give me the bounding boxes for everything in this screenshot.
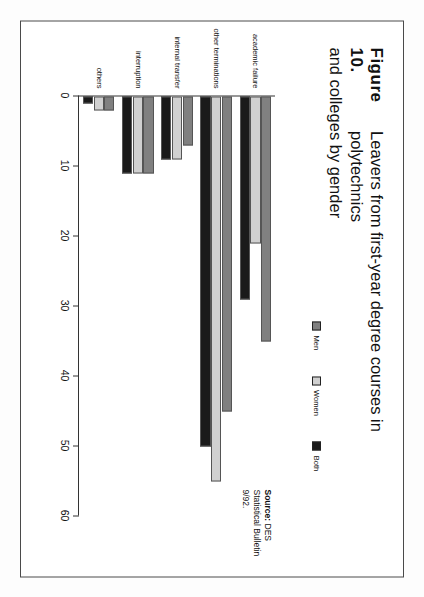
axis-tick bbox=[73, 165, 79, 166]
axis-tick bbox=[73, 305, 79, 306]
bar-men bbox=[261, 96, 271, 341]
figure-title-block: Figure 10. Leavers from first-year degre… bbox=[326, 47, 387, 477]
rotation-wrapper: Figure 10. Leavers from first-year degre… bbox=[0, 0, 424, 597]
bar-both bbox=[122, 96, 132, 173]
legend-swatch-icon bbox=[312, 321, 321, 330]
axis-tick-label: 40 bbox=[59, 369, 71, 381]
page-title: Leavers from first-year degree courses i… bbox=[347, 131, 387, 477]
axis-tick bbox=[73, 235, 79, 236]
bar-group: academic failure bbox=[236, 95, 275, 515]
chart-legend: MenWomenBoth bbox=[312, 321, 321, 471]
legend-item-women: Women bbox=[312, 376, 321, 416]
axis-tick-label: 30 bbox=[59, 299, 71, 311]
axis-tick-label: 60 bbox=[59, 509, 71, 521]
category-label: other terminations bbox=[212, 14, 220, 88]
source-note: Source: DES Statistical Bulletin 9/92. bbox=[240, 489, 273, 575]
legend-item-both: Both bbox=[312, 441, 321, 470]
bar-women bbox=[172, 96, 182, 159]
figure-number: Figure 10. bbox=[346, 47, 386, 122]
bars-container bbox=[239, 96, 272, 516]
legend-label: Men bbox=[312, 335, 321, 350]
source-label: Source: bbox=[263, 489, 273, 521]
axis-tick-label: 20 bbox=[59, 229, 71, 241]
bar-men bbox=[104, 96, 114, 110]
category-label: internal transfer bbox=[173, 14, 181, 88]
page-title-second-line: and colleges by gender bbox=[326, 47, 346, 477]
axis-tick-label: 50 bbox=[59, 439, 71, 451]
legend-item-men: Men bbox=[312, 321, 321, 350]
bar-men bbox=[183, 96, 193, 145]
bar-both bbox=[83, 96, 93, 103]
source-line-3: 9/92. bbox=[240, 489, 251, 575]
scanned-page: Figure 10. Leavers from first-year degre… bbox=[0, 0, 424, 597]
bar-women bbox=[250, 96, 260, 243]
legend-label: Women bbox=[312, 390, 321, 416]
bar-women bbox=[133, 96, 143, 173]
axis-tick bbox=[73, 375, 79, 376]
figure-panel: Figure 10. Leavers from first-year degre… bbox=[20, 20, 404, 577]
bar-women bbox=[94, 96, 104, 110]
bar-both bbox=[240, 96, 250, 299]
bar-men bbox=[222, 96, 232, 411]
axis-tick-label: 0 bbox=[59, 92, 71, 98]
category-label: academic failure bbox=[251, 14, 259, 88]
bar-group: internal transfer bbox=[157, 95, 196, 515]
x-axis: 0102030405060 bbox=[49, 95, 79, 515]
category-label: others bbox=[94, 14, 102, 88]
legend-swatch-icon bbox=[312, 376, 321, 385]
bar-group: interruption bbox=[118, 95, 157, 515]
bar-women bbox=[211, 96, 221, 481]
axis-tick bbox=[73, 445, 79, 446]
axis-tick-label: 10 bbox=[59, 159, 71, 171]
category-label: interruption bbox=[134, 14, 142, 88]
bars-container bbox=[121, 96, 154, 516]
source-value: DES bbox=[263, 521, 273, 541]
bar-both bbox=[161, 96, 171, 159]
bar-groups: academic failureother terminationsintern… bbox=[79, 95, 275, 515]
source-line-2: Statistical Bulletin bbox=[251, 489, 262, 575]
axis-tick bbox=[73, 95, 79, 96]
bar-men bbox=[143, 96, 153, 173]
axis-tick bbox=[73, 515, 79, 516]
bar-group: other terminations bbox=[197, 95, 236, 515]
bars-container bbox=[82, 96, 115, 516]
bars-container bbox=[161, 96, 194, 516]
legend-label: Both bbox=[312, 455, 321, 470]
bar-group: others bbox=[79, 95, 118, 515]
plot-area: academic failureother terminationsintern… bbox=[79, 95, 275, 515]
legend-swatch-icon bbox=[312, 441, 321, 450]
bar-both bbox=[200, 96, 210, 446]
bars-container bbox=[200, 96, 233, 516]
